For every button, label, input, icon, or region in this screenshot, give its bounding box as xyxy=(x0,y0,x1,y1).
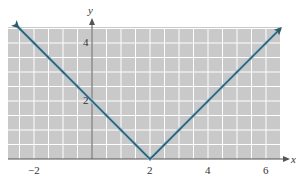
x-axis-label: x xyxy=(290,153,296,165)
x-tick-label-4: 4 xyxy=(205,164,211,176)
x-tick-label-6: 6 xyxy=(263,164,269,176)
absolute-value-graph: y x 4 2 −2 2 4 6 xyxy=(0,0,301,179)
x-tick-label-2: 2 xyxy=(147,164,153,176)
x-tick-label-neg2: −2 xyxy=(28,164,40,176)
y-tick-label-2: 2 xyxy=(83,94,89,106)
y-tick-label-4: 4 xyxy=(83,36,89,48)
y-axis-label: y xyxy=(87,4,93,16)
